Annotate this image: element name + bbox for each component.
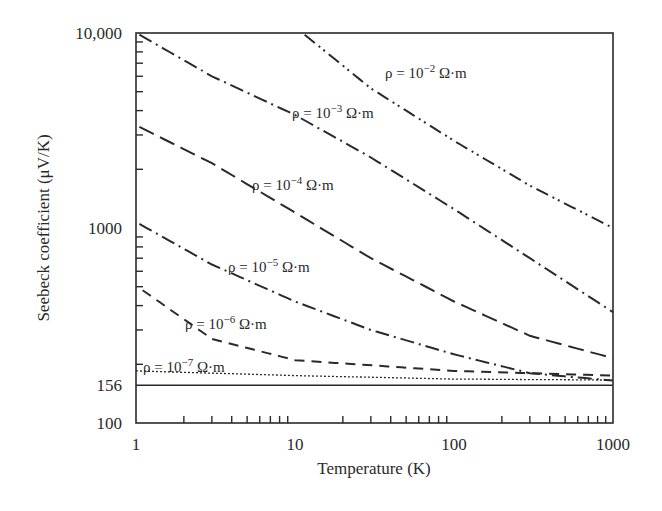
y-tick-label: 10,000 [75,24,122,43]
y-tick-label: 1000 [88,219,122,238]
curve-2 [139,35,613,313]
curve-1 [305,35,613,228]
y-tick-label: 156 [97,376,123,395]
axis-ticks: 1101001000100156100010,000 [75,24,630,454]
curve-label-3: ρ = 10−4 Ω·m [252,174,334,193]
x-tick-label: 1 [132,435,141,454]
curve-label-4: ρ = 10−5 Ω·m [228,256,310,275]
curves [136,35,613,386]
curve-label-5: ρ = 10−6 Ω·m [185,313,267,332]
x-axis-title: Temperature (K) [317,459,431,478]
curve-4 [139,224,613,381]
seebeck-chart: 1101001000100156100010,000 ρ = 10−2 Ω·mρ… [0,0,662,511]
x-tick-label: 1000 [596,435,630,454]
y-axis-title: Seebeck coefficient (μV/K) [34,134,53,321]
curve-label-2: ρ = 10−3 Ω·m [292,102,374,121]
x-tick-label: 100 [441,435,467,454]
curve-label-1: ρ = 10−2 Ω·m [385,62,467,81]
y-tick-label: 100 [97,414,123,433]
x-tick-label: 10 [287,435,304,454]
